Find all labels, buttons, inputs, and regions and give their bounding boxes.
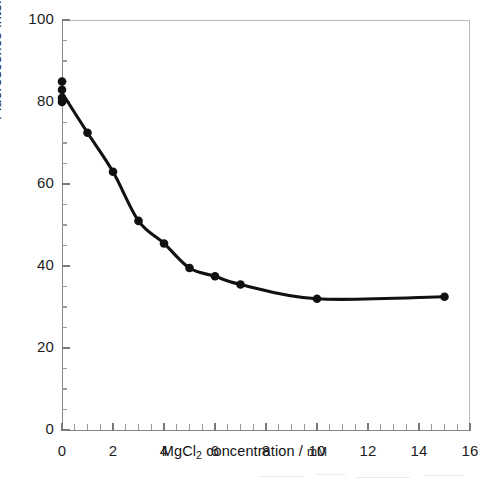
- y-tick-label-100: 100: [8, 10, 54, 27]
- x-tick-label-16: 16: [455, 442, 485, 459]
- data-point: [185, 264, 194, 273]
- data-point: [211, 272, 220, 281]
- data-point: [236, 280, 245, 289]
- data-point: [134, 217, 143, 226]
- series-markers: [58, 77, 449, 303]
- figure-panel: Fluorescence intensity MgCl2 concentrati…: [0, 0, 489, 485]
- x-tick-label-12: 12: [353, 442, 383, 459]
- scan-artifact: [258, 476, 304, 477]
- y-axis-title: Fluorescence intensity: [0, 0, 4, 120]
- scan-artifact: [316, 474, 346, 475]
- y-tick-label-20: 20: [8, 338, 54, 355]
- y-tick-label-0: 0: [8, 420, 54, 437]
- x-tick-label-10: 10: [302, 442, 332, 459]
- series-line: [62, 93, 445, 300]
- x-tick-label-4: 4: [149, 442, 179, 459]
- data-point: [58, 85, 67, 94]
- plot-area: 020406080100 0246810121416: [62, 20, 470, 430]
- data-series-fluorescence: [62, 20, 470, 430]
- x-tick-label-2: 2: [98, 442, 128, 459]
- scan-artifact: [424, 475, 464, 476]
- data-point: [440, 292, 449, 301]
- data-point: [160, 239, 169, 248]
- x-tick-label-8: 8: [251, 442, 281, 459]
- data-point: [58, 98, 67, 107]
- y-tick-label-60: 60: [8, 174, 54, 191]
- data-point: [109, 167, 118, 176]
- y-tick-label-80: 80: [8, 92, 54, 109]
- x-tick-label-6: 6: [200, 442, 230, 459]
- scan-artifact: [356, 477, 410, 478]
- x-tick-label-0: 0: [47, 442, 77, 459]
- data-point: [58, 77, 67, 86]
- y-tick-label-40: 40: [8, 256, 54, 273]
- x-tick-label-14: 14: [404, 442, 434, 459]
- data-point: [83, 128, 92, 137]
- data-point: [313, 295, 322, 304]
